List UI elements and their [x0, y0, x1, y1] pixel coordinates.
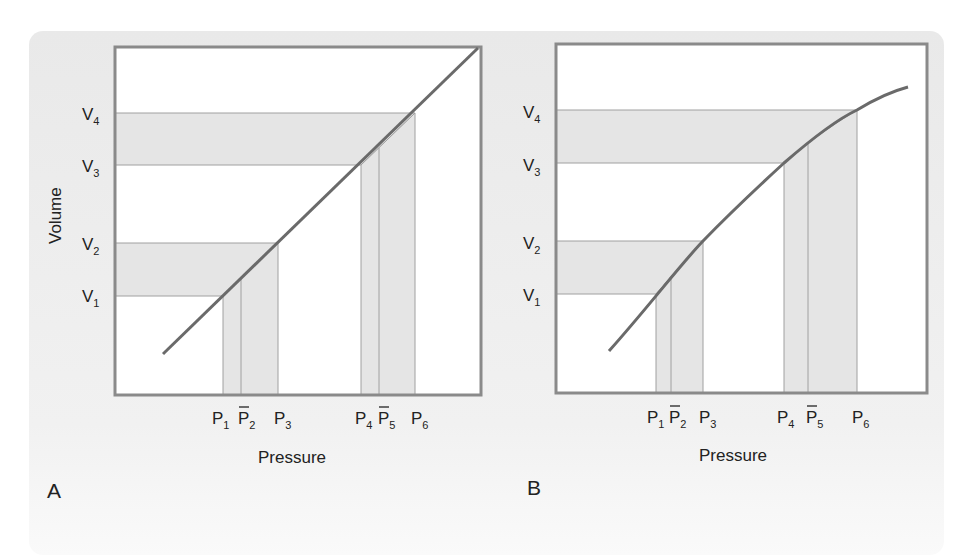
panel-a-y-axis-title: Volume: [46, 187, 65, 244]
panel-a-x-axis-title: Pressure: [258, 448, 326, 467]
panel-b-plot-area: [556, 44, 927, 393]
pressure-volume-figure: V4 V3 V2 V1 Volume P1 P2 P3 P4 P5 P6 Pre…: [0, 0, 969, 555]
panel-b-x-axis-title: Pressure: [699, 446, 767, 465]
panel-a-letter: A: [47, 479, 61, 502]
panel-b-letter: B: [527, 476, 541, 499]
